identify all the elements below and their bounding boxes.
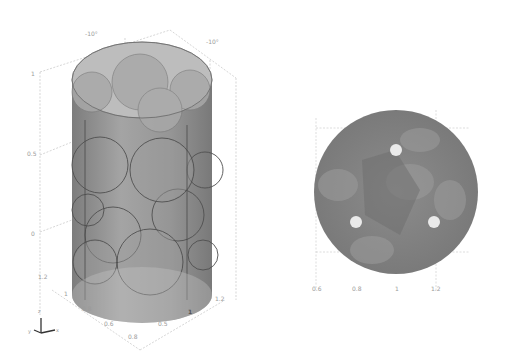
figure: -10° -10° 1 0.5 0 1.2 1 0.8 0.6 0.8 1 0.… — [0, 0, 505, 358]
triad-z-label: z — [38, 308, 41, 314]
axis-triad — [34, 318, 55, 333]
z-tick-0: 0 — [31, 230, 35, 237]
view-label-right: -10° — [206, 38, 219, 45]
y-tick-1.2: 1.2 — [215, 295, 225, 302]
x-tick-1.2: 1.2 — [38, 273, 48, 280]
right-x-tick-1.2: 1.2 — [431, 285, 441, 292]
y-tick-0.5: 0.5 — [158, 320, 168, 327]
right-x-tick-1: 1 — [395, 285, 399, 292]
triad-y-label: y — [28, 328, 31, 334]
figure-graphics — [0, 0, 505, 358]
right-x-tick-0.6: 0.6 — [312, 285, 322, 292]
right-x-tick-0.8: 0.8 — [352, 285, 362, 292]
cross-section-disc — [314, 110, 478, 274]
triad-x-label: x — [56, 327, 59, 333]
z-tick-1: 1 — [31, 70, 35, 77]
z-tick-0.5: 0.5 — [27, 150, 37, 157]
x-tick-0.6: 0.6 — [104, 320, 114, 327]
view-label-left: -10° — [85, 30, 98, 37]
cylinder — [72, 42, 223, 323]
y-tick-1: 1 — [188, 308, 192, 315]
x-tick-0.8: 0.8 — [82, 305, 92, 312]
x-tick-1: 1 — [64, 290, 68, 297]
x-tick-0.8b: 0.8 — [128, 333, 138, 340]
